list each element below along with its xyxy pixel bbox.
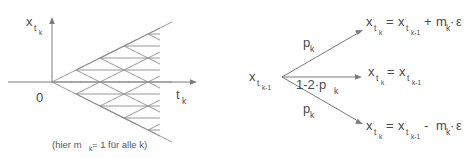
outcome-down-rhs-sub: t [406,127,409,137]
y-axis-label: x t k [26,14,43,36]
figure-container: x t k t k 0 (hier m k = 1 für alle k) x … [0,0,474,158]
outcome-middle-lhs-base: x [368,64,375,79]
branch-probability-middle-sub: k [334,86,339,96]
outcome-down-epsilon: ε [456,118,462,133]
outcome-middle-rhs-sub: t [407,73,410,83]
trinomial-lattice: x t k t k 0 (hier m k = 1 für alle k) [8,14,197,152]
branch-probability-up-sub: k [310,44,315,54]
lattice-horizontals [52,34,172,130]
outcome-middle-lhs-sub2: k [381,79,385,86]
lattice-caption: (hier m k = 1 für alle k) [52,139,147,152]
outcome-middle-rhs-base: x [399,64,406,79]
source-node-label: x t k-1 [249,69,271,91]
branch-outcome-down: x t k = x t k-1 - m k · ε [366,118,462,140]
y-axis-label-base: x [26,14,33,29]
y-axis-label-sub: t [34,23,37,33]
source-node-sub2: k-1 [262,84,271,91]
source-node-sub: t [257,78,260,88]
outcome-down-dot: · [450,118,454,133]
outcome-middle-rhs-sub2: k-1 [412,79,421,86]
branch-probability-down: p k [303,101,315,120]
branch-probability-middle-base: 1-2·p [296,77,326,92]
caption-rest: = 1 für alle k) [92,139,147,150]
outcome-down-lhs-sub2: k [379,133,383,140]
outcome-down-eq: = [386,118,394,133]
outcome-up-rhs-sub2: k-1 [411,29,420,36]
x-axis-label-sub: k [182,96,187,106]
y-axis-label-sub2: k [39,29,43,36]
outcome-up-rhs-base: x [398,14,405,29]
outcome-down-rhs-base: x [398,118,405,133]
y-axis [49,17,55,82]
outcome-down-op: - [424,118,428,133]
outcome-up-rhs-sub: t [406,23,409,33]
x-axis-label: t k [176,87,187,106]
outcome-middle-eq: = [387,64,395,79]
source-node-base: x [249,69,256,84]
branch-outcome-middle: x t k = x t k-1 [368,64,421,86]
outcome-up-op: + [424,14,432,29]
branch-probability-middle: 1-2·p k [296,77,339,96]
outcome-middle-lhs-sub: t [376,73,379,83]
caption-open: (hier m [52,139,82,150]
outcome-up-dot: · [450,14,454,29]
outcome-up-epsilon: ε [456,14,462,29]
outcome-down-lhs-base: x [366,118,373,133]
branch-arrow-up [282,30,363,77]
branch-outcome-up: x t k = x t k-1 + m k · ε [366,14,462,36]
origin-label: 0 [36,90,43,105]
outcome-up-lhs-base: x [366,14,373,29]
branching-probabilities: x t k-1 p k 1-2·p k [249,14,462,140]
branch-probability-up: p k [303,35,315,54]
outcome-up-lhs-sub: t [374,23,377,33]
outcome-up-eq: = [386,14,394,29]
branch-probability-down-sub: k [310,110,315,120]
outcome-up-lhs-sub2: k [379,29,383,36]
outcome-down-rhs-sub2: k-1 [411,133,420,140]
x-axis-label-base: t [176,87,180,102]
outcome-down-lhs-sub: t [374,127,377,137]
